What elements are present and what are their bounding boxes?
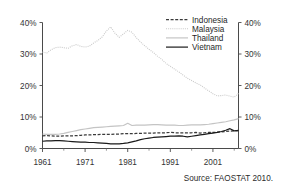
y-tick-label-left: 20% — [20, 82, 36, 91]
line-chart: 0%0%10%10%20%20%30%30%40%40%196119711981… — [0, 0, 281, 191]
x-tick-label: 1971 — [76, 158, 95, 167]
x-tick-label: 1991 — [161, 158, 180, 167]
chart-legend: IndonesiaMalaysiaThailandVietnam — [166, 16, 228, 53]
chart-axes: 0%0%10%10%20%20%30%30%40%40%196119711981… — [20, 19, 261, 167]
source-note: Source: FAOSTAT 2010. — [184, 174, 273, 183]
chart-figure: 0%0%10%10%20%20%30%30%40%40%196119711981… — [0, 0, 281, 191]
legend-label-vietnam: Vietnam — [192, 43, 222, 52]
y-tick-label-right: 20% — [245, 82, 261, 91]
x-tick-label: 1981 — [119, 158, 138, 167]
y-tick-label-left: 10% — [20, 113, 36, 122]
y-tick-label-right: 10% — [245, 113, 261, 122]
x-tick-label: 1961 — [33, 158, 52, 167]
y-tick-label-right: 30% — [245, 50, 261, 59]
y-tick-label-left: 40% — [20, 19, 36, 28]
y-tick-label-right: 40% — [245, 19, 261, 28]
x-tick-label: 2001 — [204, 158, 223, 167]
y-tick-label-right: 0% — [245, 145, 257, 154]
legend-label-thailand: Thailand — [192, 34, 224, 43]
legend-label-malaysia: Malaysia — [192, 25, 225, 34]
legend-label-indonesia: Indonesia — [192, 16, 228, 25]
y-tick-label-left: 30% — [20, 50, 36, 59]
y-tick-label-left: 0% — [25, 145, 37, 154]
